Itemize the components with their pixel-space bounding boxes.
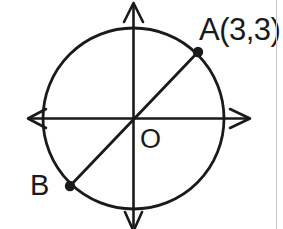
point-b-label: B (30, 171, 49, 200)
point-b-marker (65, 181, 75, 191)
origin-label: O (140, 126, 161, 153)
point-a-label: A(3,3) (199, 14, 280, 45)
y-axis (124, 3, 143, 229)
page-right-border (276, 0, 277, 229)
point-a-marker (193, 47, 203, 57)
geometry-figure: A(3,3) B O (0, 0, 283, 229)
